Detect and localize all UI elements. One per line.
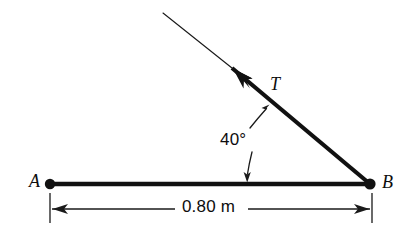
physics-diagram-figure: A B T 40° 0.80 m: [0, 0, 417, 228]
label-dimension-value: 0.80 m: [177, 197, 240, 216]
label-point-a: A: [29, 172, 40, 190]
cable-thin-extension-line: [163, 13, 237, 72]
diagram-canvas: [0, 0, 417, 228]
joint-dot-b: [364, 178, 375, 189]
cable-line: [232, 68, 370, 184]
angle-leader-lower: [244, 152, 252, 183]
label-tension-t: T: [270, 75, 280, 93]
joint-dot-a: [45, 179, 55, 189]
angle-leader-upper: [250, 105, 270, 129]
label-angle-40-degrees: 40°: [220, 131, 246, 148]
label-point-b: B: [382, 173, 393, 191]
label-dimension-container: 0.80 m: [0, 198, 417, 215]
